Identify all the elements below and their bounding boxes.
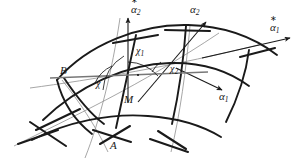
- vector-label-alpha1-star-base: α: [270, 21, 276, 33]
- figure-container: B A M α1 α2 α1 α2 χ χ1 χ2: [0, 0, 299, 164]
- star-icon: α: [270, 22, 276, 33]
- point-label-m: M: [124, 94, 133, 105]
- point-label-a: A: [110, 140, 117, 151]
- star-icon: α: [131, 4, 137, 15]
- vector-label-alpha1-subscript: 1: [225, 95, 229, 104]
- point-label-b: B: [60, 65, 67, 76]
- node-dot-m: [137, 74, 139, 76]
- vector-alpha2-arrow: [138, 22, 206, 102]
- vector-label-alpha2-star: α2: [131, 4, 141, 16]
- vector-label-alpha2: α2: [190, 4, 200, 16]
- vector-label-alpha2-subscript: 2: [196, 8, 200, 17]
- angle-label-chi1-subscript: 1: [140, 49, 144, 58]
- vector-label-alpha1-star: α1: [270, 22, 280, 34]
- tangent-crossing-left-a: [30, 122, 66, 146]
- tangent-node-right-edge: [240, 48, 275, 57]
- net-curve-far-right-rib: [226, 50, 249, 122]
- angle-label-chi-base: χ: [96, 78, 100, 89]
- tangent-node-top-right: [165, 30, 210, 31]
- angle-label-chi2-subscript: 2: [174, 67, 178, 76]
- node-marker-dots: [137, 74, 139, 76]
- angle-label-chi1: χ1: [136, 46, 144, 57]
- vector-label-alpha2-star-base: α: [131, 3, 137, 15]
- net-curve-center-rib: [116, 35, 136, 128]
- angle-label-chi: χ: [96, 79, 100, 90]
- vector-label-alpha2-star-subscript: 2: [137, 8, 141, 17]
- vector-label-alpha1: α1: [219, 91, 229, 103]
- light-curve-upper-diagonal: [14, 33, 219, 146]
- tangent-segments-at-nodes: [18, 30, 275, 152]
- vector-label-alpha1-star-subscript: 1: [276, 26, 280, 35]
- angle-label-chi2: χ2: [170, 64, 178, 75]
- light-curve-b-to-a: [62, 80, 108, 152]
- diagram-canvas: [0, 0, 299, 164]
